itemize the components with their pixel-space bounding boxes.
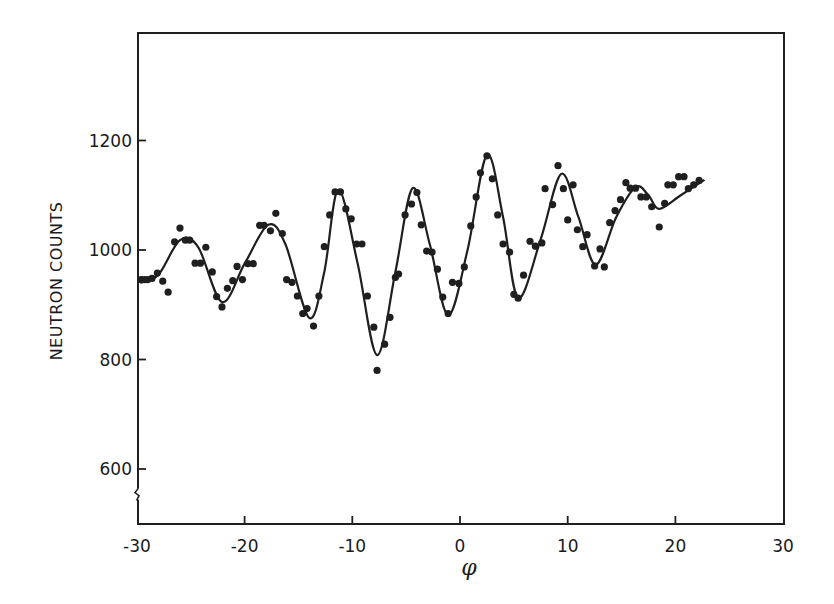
axis-break-mark xyxy=(135,489,139,500)
data-point xyxy=(499,240,506,247)
data-point xyxy=(434,266,441,273)
data-point xyxy=(401,211,408,218)
data-point xyxy=(541,185,548,192)
data-point xyxy=(632,185,639,192)
data-point xyxy=(154,269,161,276)
data-point xyxy=(445,310,452,317)
data-point xyxy=(601,263,608,270)
x-axis-title: φ xyxy=(461,555,477,580)
data-point xyxy=(564,216,571,223)
data-point xyxy=(695,177,702,184)
data-point xyxy=(321,243,328,250)
data-point xyxy=(483,152,490,159)
data-point xyxy=(477,169,484,176)
data-point xyxy=(439,293,446,300)
data-point xyxy=(591,262,598,269)
data-point xyxy=(606,219,613,226)
data-point xyxy=(260,222,267,229)
x-tick-label: 20 xyxy=(665,536,687,556)
data-point xyxy=(648,203,655,210)
data-point xyxy=(473,193,480,200)
data-point xyxy=(267,227,274,234)
data-point xyxy=(213,293,220,300)
data-point xyxy=(233,263,240,270)
data-point xyxy=(455,280,462,287)
data-point xyxy=(413,189,420,196)
data-point xyxy=(209,268,216,275)
data-point xyxy=(538,239,545,246)
x-tick-label: -10 xyxy=(338,536,366,556)
data-point xyxy=(506,249,513,256)
data-point xyxy=(643,193,650,200)
x-tick-label: 30 xyxy=(772,536,794,556)
data-point xyxy=(617,196,624,203)
data-point xyxy=(171,238,178,245)
data-point xyxy=(186,237,193,244)
data-point xyxy=(197,260,204,267)
x-tick-label: 0 xyxy=(455,536,466,556)
data-point xyxy=(218,303,225,310)
data-point xyxy=(337,188,344,195)
data-point xyxy=(229,277,236,284)
data-point xyxy=(560,185,567,192)
data-point xyxy=(370,324,377,331)
x-axis-ticks: -30-20-100102030 xyxy=(123,516,794,556)
data-point xyxy=(348,215,355,222)
x-tick-label: -30 xyxy=(123,536,151,556)
y-tick-label: 1200 xyxy=(89,131,132,151)
data-point xyxy=(202,244,209,251)
data-point xyxy=(159,278,166,285)
data-point xyxy=(461,263,468,270)
data-point xyxy=(467,222,474,229)
data-point xyxy=(428,249,435,256)
data-point xyxy=(326,211,333,218)
data-point xyxy=(449,279,456,286)
data-point xyxy=(408,200,415,207)
data-point xyxy=(310,323,317,330)
data-point xyxy=(526,238,533,245)
y-tick-label: 600 xyxy=(100,459,132,479)
data-point xyxy=(386,314,393,321)
x-tick-label: -20 xyxy=(231,536,259,556)
data-point xyxy=(288,279,295,286)
data-point xyxy=(373,367,380,374)
data-point xyxy=(381,341,388,348)
y-axis-title: NEUTRON COUNTS xyxy=(47,202,66,361)
data-point xyxy=(494,211,501,218)
data-point xyxy=(661,200,668,207)
data-point xyxy=(395,270,402,277)
data-point xyxy=(574,226,581,233)
data-point xyxy=(165,289,172,296)
data-point xyxy=(489,175,496,182)
data-point xyxy=(239,276,246,283)
data-point xyxy=(549,201,556,208)
data-point xyxy=(656,223,663,230)
data-point xyxy=(272,210,279,217)
fit-curve xyxy=(140,154,704,355)
data-point xyxy=(224,285,231,292)
data-point xyxy=(315,292,322,299)
data-point xyxy=(303,305,310,312)
data-point xyxy=(583,231,590,238)
y-tick-label: 800 xyxy=(100,350,132,370)
data-point xyxy=(294,292,301,299)
y-tick-label: 1000 xyxy=(89,240,132,260)
data-points xyxy=(138,152,703,374)
data-point xyxy=(670,181,677,188)
data-point xyxy=(596,245,603,252)
data-point xyxy=(418,221,425,228)
data-point xyxy=(364,292,371,299)
data-point xyxy=(342,205,349,212)
data-point xyxy=(532,243,539,250)
data-point xyxy=(250,260,257,267)
data-point xyxy=(279,230,286,237)
data-point xyxy=(358,240,365,247)
data-point xyxy=(176,225,183,232)
data-point xyxy=(515,295,522,302)
x-tick-label: 10 xyxy=(557,536,579,556)
data-point xyxy=(680,173,687,180)
data-point xyxy=(579,243,586,250)
data-point xyxy=(569,181,576,188)
data-point xyxy=(148,275,155,282)
data-point xyxy=(520,272,527,279)
